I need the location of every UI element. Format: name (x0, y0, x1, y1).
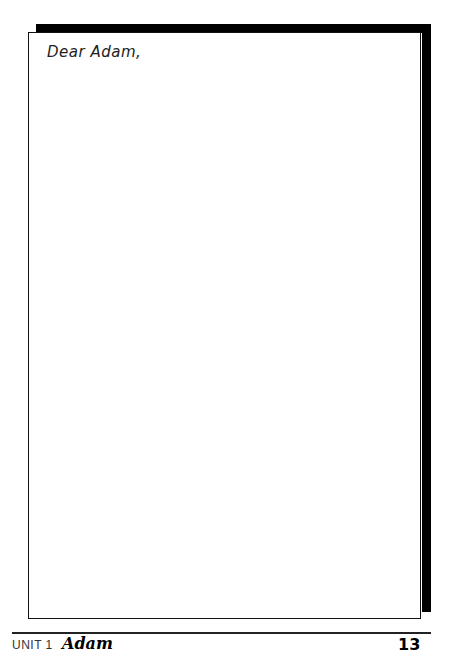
page-number: 13 (398, 635, 420, 651)
footer-unit-label: UNIT 1 (12, 638, 53, 651)
letter-writing-box: Dear Adam, (28, 32, 421, 619)
footer-unit-title: Adam (62, 634, 113, 651)
letter-salutation: Dear Adam, (47, 43, 141, 61)
box-shadow-right (422, 24, 431, 612)
